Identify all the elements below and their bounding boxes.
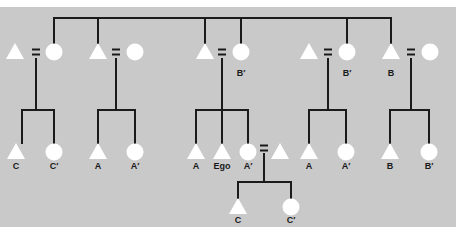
female-circle-icon [240, 144, 257, 161]
male-triangle-icon [6, 43, 24, 59]
person-label: B′ [343, 68, 352, 78]
person-label: A [306, 161, 313, 171]
female-circle-icon [339, 44, 356, 61]
female-circle-icon [127, 144, 144, 161]
female-circle-icon [283, 199, 300, 216]
female-circle-icon [46, 144, 63, 161]
person-label: C′ [287, 215, 296, 225]
person-label: C′ [50, 161, 59, 171]
female-circle-icon [233, 44, 250, 61]
male-triangle-icon [271, 143, 289, 159]
kinship-diagram: B′B′BCC′AA′AEgoA′AA′BB′CC′ [0, 0, 464, 239]
person-label: C [235, 215, 242, 225]
male-triangle-icon [213, 143, 231, 159]
person-label: A′ [131, 161, 140, 171]
person-label: A [193, 161, 200, 171]
male-triangle-icon [229, 198, 247, 214]
person-label: A [95, 161, 102, 171]
person-label: B′ [237, 68, 246, 78]
male-triangle-icon [89, 43, 107, 59]
person-label: Ego [214, 161, 232, 171]
person-label: B [388, 68, 395, 78]
person-label: C [13, 161, 20, 171]
female-circle-icon [422, 44, 439, 61]
male-triangle-icon [300, 43, 318, 59]
female-circle-icon [421, 144, 438, 161]
male-triangle-icon [196, 43, 214, 59]
male-triangle-icon [7, 143, 25, 159]
person-label: B′ [425, 161, 434, 171]
male-triangle-icon [300, 143, 318, 159]
female-circle-icon [338, 144, 355, 161]
female-circle-icon [127, 44, 144, 61]
person-label: A′ [342, 161, 351, 171]
male-triangle-icon [187, 143, 205, 159]
female-circle-icon [46, 44, 63, 61]
person-label: A′ [244, 161, 253, 171]
person-label: B [387, 161, 394, 171]
male-triangle-icon [89, 143, 107, 159]
male-triangle-icon [381, 143, 399, 159]
male-triangle-icon [382, 43, 400, 59]
